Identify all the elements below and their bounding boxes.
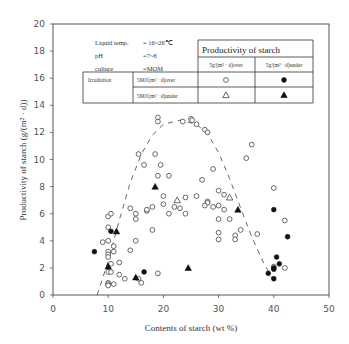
open-circle-marker: [155, 173, 160, 178]
open-circle-marker: [183, 211, 188, 216]
open-circle-marker: [211, 167, 216, 172]
filled-triangle-marker: [113, 228, 119, 234]
open-circle-marker: [190, 118, 195, 123]
open-circle-marker: [180, 119, 185, 124]
filled-circle-marker: [142, 270, 147, 275]
x-tick-label: 0: [50, 304, 56, 314]
legend-row2: 5MJ/(m² · d)under: [137, 93, 178, 100]
open-circle-marker: [100, 240, 105, 245]
open-circle-marker: [282, 218, 287, 223]
culture-label: culture: [95, 65, 113, 72]
legend-row1: 5MJ/(m² · d)over: [137, 77, 175, 84]
open-triangle-marker: [174, 197, 180, 203]
open-circle-marker: [211, 205, 216, 210]
y-tick-label: 2: [39, 263, 45, 273]
filled-triangle-marker: [185, 265, 191, 271]
open-circle-marker: [205, 130, 210, 135]
legend-col1: 5g/(m² · d)over: [209, 62, 243, 69]
y-tick-label: 6: [39, 209, 45, 219]
filled-circle-marker: [274, 255, 279, 260]
filled-circle-marker: [92, 249, 97, 254]
open-circle-marker: [150, 205, 155, 210]
data-points: [92, 115, 290, 288]
scatter-chart: 0102030405002468101214161820 Liquid temp…: [0, 0, 349, 344]
open-circle-marker: [136, 152, 141, 157]
open-circle-marker: [167, 211, 172, 216]
open-circle-marker: [216, 230, 221, 235]
open-circle-marker: [194, 122, 199, 127]
open-circle-marker: [109, 270, 114, 275]
y-tick-label: 16: [34, 73, 46, 83]
y-axis-label: Productivity of starch (g/(m² · d)): [18, 100, 28, 221]
filled-circle-marker: [271, 276, 276, 281]
filled-circle-marker: [271, 207, 276, 212]
open-circle-marker: [222, 192, 227, 197]
x-tick-label: 30: [213, 304, 225, 314]
open-circle-marker: [111, 244, 116, 249]
open-circle-marker: [183, 195, 188, 200]
open-circle-marker: [244, 156, 249, 161]
open-circle-marker: [106, 283, 111, 288]
open-circle-marker: [133, 217, 138, 222]
open-circle-marker: [255, 232, 260, 237]
open-circle-marker: [150, 228, 155, 233]
open-circle-marker: [161, 194, 166, 199]
open-circle-marker: [172, 205, 177, 210]
open-circle-marker: [178, 206, 183, 211]
open-circle-marker: [106, 255, 111, 260]
open-circle-marker: [153, 152, 158, 157]
open-circle-marker: [227, 217, 232, 222]
y-tick-label: 0: [39, 290, 45, 300]
open-circle-marker: [111, 249, 116, 254]
filled-circle-marker: [282, 78, 287, 83]
y-tick-label: 10: [34, 155, 46, 165]
open-circle-marker: [167, 173, 172, 178]
open-circle-marker: [155, 119, 160, 124]
open-circle-marker: [117, 272, 122, 277]
filled-triangle-marker: [152, 183, 158, 189]
open-circle-marker: [155, 271, 160, 276]
open-circle-marker: [128, 248, 133, 253]
filled-circle-marker: [277, 261, 282, 266]
open-circle-marker: [161, 202, 166, 207]
open-circle-marker: [133, 211, 138, 216]
open-circle-marker: [216, 203, 221, 208]
ph-label: pH: [95, 52, 103, 59]
ph-value: =7~8: [143, 52, 157, 59]
liquid-temp-label: Liquid temp.: [95, 39, 129, 46]
x-axis-label: Contents of starch (wt %): [145, 323, 237, 333]
y-tick-label: 14: [34, 100, 46, 110]
open-circle-marker: [216, 188, 221, 193]
legend-row-group: Irradiation: [88, 77, 111, 83]
open-circle-marker: [224, 78, 229, 83]
filled-circle-marker: [271, 267, 276, 272]
x-tick-label: 10: [102, 304, 114, 314]
legend-box: Liquid temp.= 16~26℃pH=7~8culture=MOMPro…: [73, 32, 317, 103]
filled-circle-marker: [109, 229, 114, 234]
liquid-temp-value: = 16~26℃: [143, 39, 173, 46]
y-tick-label: 12: [34, 127, 45, 137]
open-circle-marker: [128, 206, 133, 211]
open-circle-marker: [122, 276, 127, 281]
open-circle-marker: [194, 194, 199, 199]
open-circle-marker: [133, 238, 138, 243]
open-circle-marker: [200, 177, 205, 182]
open-circle-marker: [109, 211, 114, 216]
open-circle-marker: [111, 282, 116, 287]
y-tick-label: 18: [34, 46, 46, 56]
x-tick-label: 50: [323, 304, 335, 314]
open-circle-marker: [144, 207, 149, 212]
culture-value: =MOM: [143, 65, 163, 72]
open-circle-marker: [216, 237, 221, 242]
y-tick-label: 8: [39, 182, 45, 192]
x-tick-label: 20: [158, 304, 170, 314]
trend-line: [97, 120, 274, 295]
open-circle-marker: [238, 228, 243, 233]
open-circle-marker: [117, 260, 122, 265]
y-tick-label: 20: [34, 19, 46, 29]
filled-circle-marker: [266, 271, 271, 276]
open-circle-marker: [158, 163, 163, 168]
y-tick-label: 4: [39, 236, 45, 246]
open-circle-marker: [142, 163, 147, 168]
legend-header: Productivity of starch: [202, 45, 280, 55]
